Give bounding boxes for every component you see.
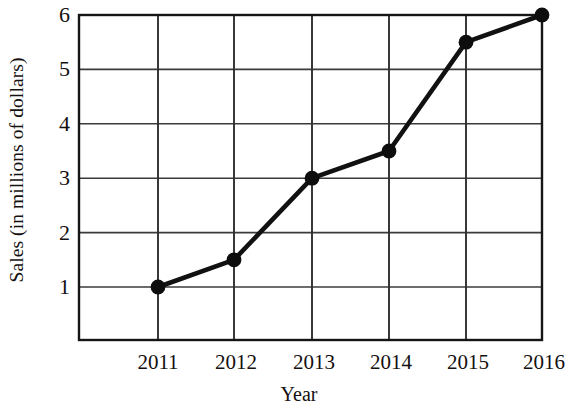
data-line xyxy=(158,15,542,287)
data-point xyxy=(459,35,474,50)
x-axis-tick-labels: 2011 2012 2013 2014 2015 2016 xyxy=(0,352,574,382)
line-chart-figure: Sales (in millions of dollars) 1 2 3 4 5… xyxy=(0,0,574,414)
data-point xyxy=(227,252,242,267)
x-axis-title-wrap: Year xyxy=(0,384,574,404)
x-tick-label: 2016 xyxy=(499,352,574,373)
data-point xyxy=(151,280,166,295)
data-point xyxy=(305,171,320,186)
x-tick-label: 2012 xyxy=(191,352,281,373)
data-point xyxy=(382,144,397,159)
x-axis-title: Year xyxy=(281,383,318,405)
data-point xyxy=(535,8,550,23)
data-point-markers xyxy=(151,8,550,295)
x-tick-label: 2011 xyxy=(113,352,203,373)
